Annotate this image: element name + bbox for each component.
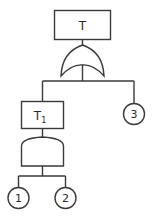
basic-event-3-label: 3 (131, 108, 138, 121)
top-event-label: T (78, 19, 87, 33)
intermediate-event-t1: T1 (22, 102, 64, 129)
basic-event-1: 1 (8, 188, 29, 209)
fault-tree-diagram: T T1 1 2 3 (0, 0, 154, 220)
basic-event-1-label: 1 (15, 192, 22, 205)
basic-event-3: 3 (124, 104, 145, 125)
top-event: T (55, 11, 111, 40)
basic-event-2-label: 2 (62, 192, 69, 205)
basic-event-2: 2 (55, 188, 76, 209)
t1-subscript: 1 (41, 116, 46, 125)
and-gate-icon (22, 137, 64, 166)
